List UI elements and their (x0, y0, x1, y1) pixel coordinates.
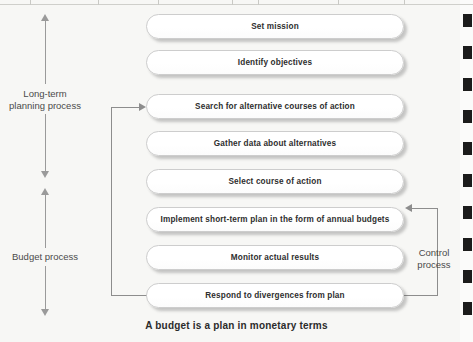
process-box-set-mission[interactable]: Set mission (146, 14, 404, 39)
control-right-arrow-head (405, 204, 412, 212)
long-term-arrow-down-head (41, 171, 49, 178)
top-tick (158, 0, 159, 5)
diagram-canvas: Long-term planning process Budget proces… (0, 0, 473, 342)
process-box-label: Select course of action (228, 177, 321, 186)
process-box-label: Search for alternative courses of action (195, 102, 355, 111)
budget-arrow-lower-shaft (45, 266, 46, 310)
page-edge-mark (463, 302, 472, 315)
diagram-caption: A budget is a plan in monetary terms (0, 320, 473, 331)
page-edge-mark (463, 14, 472, 27)
bracket-label-budget-process: Budget process (0, 251, 90, 263)
top-tick (98, 0, 99, 5)
top-tick (232, 0, 233, 5)
process-box-select-course[interactable]: Select course of action (146, 169, 404, 194)
budget-arrow-down-head (41, 309, 49, 316)
top-tick (258, 0, 259, 5)
feedback-left-bottom-segment (111, 295, 147, 296)
control-right-top-segment (412, 208, 438, 209)
page-edge-mark (463, 46, 472, 59)
control-right-bottom-segment (404, 295, 438, 296)
process-box-label: Set mission (251, 22, 299, 31)
process-box-search-alternatives[interactable]: Search for alternative courses of action (146, 94, 404, 119)
feedback-left-arrow-head (139, 103, 146, 111)
top-tick (404, 0, 405, 5)
process-box-gather-data[interactable]: Gather data about alternatives (146, 131, 404, 156)
page-edge-mark (463, 206, 472, 219)
feedback-left-top-segment (111, 107, 139, 108)
side-label-control-process: Control process (404, 247, 464, 270)
long-term-arrow-upper-shaft (45, 20, 46, 84)
page-edge-mark (463, 110, 472, 123)
top-tick (338, 0, 339, 5)
process-box-respond-divergences[interactable]: Respond to divergences from plan (146, 283, 404, 308)
process-box-label: Respond to divergences from plan (205, 291, 344, 300)
page-edge-mark (463, 238, 472, 251)
page-edge-mark (463, 78, 472, 91)
process-box-label: Identify objectives (238, 58, 312, 67)
long-term-arrow-lower-shaft (45, 114, 46, 172)
page-edge-mark (463, 142, 472, 155)
top-rule (0, 4, 473, 5)
process-box-label: Implement short-term plan in the form of… (161, 215, 390, 224)
budget-arrow-upper-shaft (45, 194, 46, 248)
top-tick (30, 0, 31, 5)
feedback-left-vertical-segment (111, 107, 112, 296)
page-edge-mark (463, 270, 472, 283)
process-box-identify-objectives[interactable]: Identify objectives (146, 50, 404, 75)
page-edge-mark (463, 174, 472, 187)
bracket-label-long-term-planning: Long-term planning process (0, 88, 90, 111)
process-box-monitor-results[interactable]: Monitor actual results (146, 245, 404, 270)
process-box-implement-plan[interactable]: Implement short-term plan in the form of… (146, 207, 404, 232)
process-box-label: Monitor actual results (231, 253, 319, 262)
process-box-label: Gather data about alternatives (214, 139, 336, 148)
